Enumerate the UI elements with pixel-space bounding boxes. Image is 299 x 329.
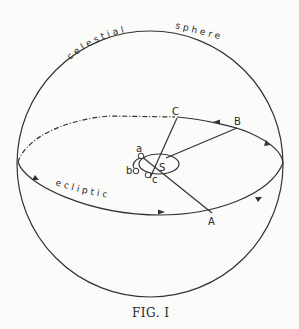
figure-caption: FIG. I bbox=[132, 306, 170, 320]
point-C-label: C bbox=[172, 106, 179, 117]
direction-arrow-icon bbox=[158, 210, 165, 215]
sun-S-label: S bbox=[159, 162, 165, 173]
direction-arrow-icon bbox=[255, 197, 262, 202]
sphere-label: sphere bbox=[175, 20, 225, 41]
position-b-label: b bbox=[126, 165, 132, 176]
celestial-sphere-diagram: celestial sphere ecliptic C B A S a b c … bbox=[0, 0, 299, 329]
direction-arrow-icon bbox=[32, 175, 39, 180]
earth-position-c bbox=[145, 172, 151, 178]
position-a-label: a bbox=[136, 143, 142, 154]
ecliptic-front-arc bbox=[18, 162, 283, 215]
position-c-label: c bbox=[152, 174, 158, 185]
sightline-to-B bbox=[166, 128, 237, 158]
celestial-label: celestial bbox=[65, 24, 128, 62]
ecliptic-back-solid bbox=[177, 117, 283, 163]
point-A-label: A bbox=[208, 216, 215, 227]
celestial-sphere-circle bbox=[17, 31, 283, 297]
point-B-label: B bbox=[234, 116, 241, 127]
direction-arrow-icon bbox=[213, 120, 220, 125]
earth-position-b bbox=[133, 168, 139, 174]
